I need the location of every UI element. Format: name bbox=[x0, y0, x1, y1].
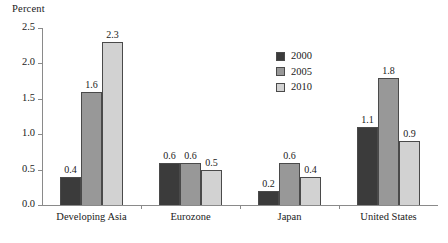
x-tick-mark bbox=[339, 205, 340, 209]
legend-item[interactable]: 2005 bbox=[276, 67, 312, 78]
y-tick-mark bbox=[38, 205, 43, 206]
bar[interactable] bbox=[60, 177, 81, 205]
bar-value-label: 0.2 bbox=[262, 178, 275, 189]
bar[interactable] bbox=[81, 92, 102, 205]
legend-swatch-icon bbox=[276, 52, 285, 61]
bar-value-label: 0.6 bbox=[163, 150, 176, 161]
legend-item[interactable]: 2000 bbox=[276, 51, 312, 62]
bar-value-label: 0.5 bbox=[205, 157, 218, 168]
y-tick-label: 0.5 bbox=[22, 163, 35, 174]
bar-value-label: 0.6 bbox=[283, 150, 296, 161]
bar-chart: Percent 0.00.51.01.52.02.5 0.41.62.3Deve… bbox=[0, 0, 448, 243]
legend-item-label: 2005 bbox=[291, 67, 312, 78]
x-axis-category-label: Japan bbox=[278, 211, 302, 222]
legend-swatch-icon bbox=[276, 67, 285, 76]
bar[interactable] bbox=[357, 127, 378, 205]
bar[interactable] bbox=[180, 163, 201, 205]
y-tick-label: 2.0 bbox=[22, 56, 35, 67]
x-tick-mark bbox=[141, 205, 142, 209]
bar-slot: 0.9 bbox=[399, 28, 420, 205]
bar[interactable] bbox=[399, 141, 420, 205]
bar-group: 1.11.80.9United States bbox=[339, 28, 438, 205]
y-tick-label: 1.0 bbox=[22, 127, 35, 138]
bar[interactable] bbox=[159, 163, 180, 205]
bar-value-label: 2.3 bbox=[106, 29, 119, 40]
y-tick-label: 1.5 bbox=[22, 92, 35, 103]
bar-group-bars: 0.41.62.3 bbox=[42, 28, 141, 205]
bar-group: 0.41.62.3Developing Asia bbox=[42, 28, 141, 205]
legend-item-label: 2010 bbox=[291, 82, 312, 93]
bar[interactable] bbox=[279, 163, 300, 205]
bar[interactable] bbox=[102, 42, 123, 205]
bar-slot: 1.8 bbox=[378, 28, 399, 205]
legend-item[interactable]: 2010 bbox=[276, 82, 312, 93]
bar-value-label: 0.6 bbox=[184, 150, 197, 161]
bar-value-label: 0.4 bbox=[304, 164, 317, 175]
bar-slot: 1.1 bbox=[357, 28, 378, 205]
bar-slot: 0.4 bbox=[60, 28, 81, 205]
bar[interactable] bbox=[258, 191, 279, 205]
bar[interactable] bbox=[300, 177, 321, 205]
chart-legend: 2000 2005 2010 bbox=[276, 51, 312, 93]
bar[interactable] bbox=[378, 78, 399, 205]
y-axis-title: Percent bbox=[12, 3, 45, 14]
plot-area: 0.00.51.01.52.02.5 0.41.62.3Developing A… bbox=[42, 28, 438, 205]
bar-value-label: 0.4 bbox=[64, 164, 77, 175]
x-tick-mark bbox=[240, 205, 241, 209]
bar-value-label: 1.6 bbox=[85, 79, 98, 90]
bar-group-bars: 1.11.80.9 bbox=[339, 28, 438, 205]
x-axis-category-label: Eurozone bbox=[170, 211, 210, 222]
bar-slot: 0.6 bbox=[159, 28, 180, 205]
bar-value-label: 1.1 bbox=[361, 114, 374, 125]
bar-group-bars: 0.60.60.5 bbox=[141, 28, 240, 205]
bar-slot: 0.6 bbox=[180, 28, 201, 205]
bar-slot: 2.3 bbox=[102, 28, 123, 205]
bar-slot: 1.6 bbox=[81, 28, 102, 205]
y-tick-label: 2.5 bbox=[22, 21, 35, 32]
bar[interactable] bbox=[201, 170, 222, 205]
bar-value-label: 1.8 bbox=[382, 65, 395, 76]
legend-item-label: 2000 bbox=[291, 51, 312, 62]
bar-slot: 0.5 bbox=[201, 28, 222, 205]
bar-value-label: 0.9 bbox=[403, 128, 416, 139]
x-axis-category-label: Developing Asia bbox=[56, 211, 126, 222]
bar-group: 0.60.60.5Eurozone bbox=[141, 28, 240, 205]
x-axis-category-label: United States bbox=[360, 211, 416, 222]
legend-swatch-icon bbox=[276, 83, 285, 92]
y-tick-label: 0.0 bbox=[22, 198, 35, 209]
